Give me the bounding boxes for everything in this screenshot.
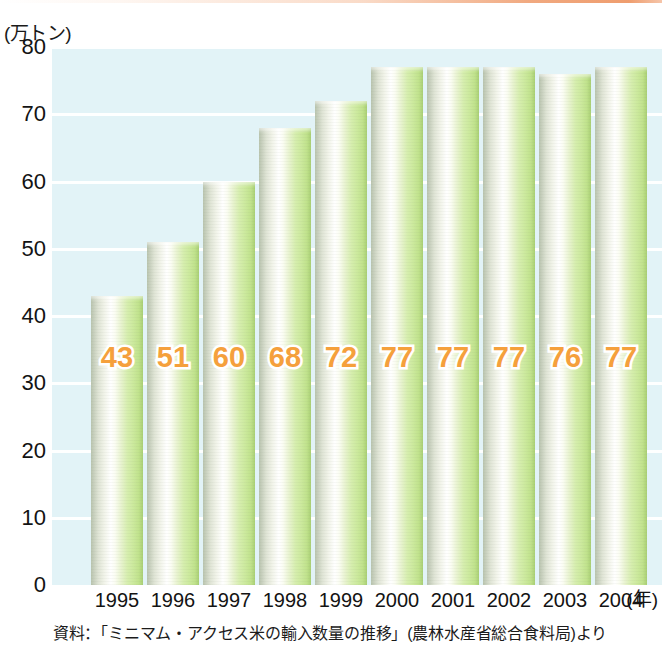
y-axis-tick-60: 60 [0,171,46,193]
y-axis-tick-70: 70 [0,103,46,125]
value-label-2003: 76 [539,343,591,372]
y-axis-tick-10: 10 [0,507,46,529]
bar-1996 [147,242,199,585]
x-axis-tick-1999: 1999 [311,590,371,610]
x-axis-unit-label: (年) [626,590,658,609]
x-axis-tick-2002: 2002 [479,590,539,610]
bar-2000 [371,67,423,585]
x-axis-tick-2003: 2003 [535,590,595,610]
y-axis-tick-40: 40 [0,305,46,327]
source-note: 資料：「ミニマム・アクセス米の輸入数量の推移」(農林水産省総合食料局)より [0,620,660,644]
value-label-1996: 51 [147,343,199,372]
y-axis-tick-80: 80 [0,36,46,58]
x-axis-tick-2001: 2001 [423,590,483,610]
value-label-2000: 77 [371,343,423,372]
x-axis-tick-1996: 1996 [143,590,203,610]
value-label-2004: 77 [595,343,647,372]
chart-figure: (万トン) 80706050403020100 4351606872777777… [0,0,662,646]
value-label-1998: 68 [259,343,311,372]
bar-series: 43516068727777777677 [52,47,662,585]
value-label-2001: 77 [427,343,479,372]
bar-2002 [483,67,535,585]
y-axis-tick-20: 20 [0,440,46,462]
bar-2003 [539,74,591,585]
page-top-rule [0,0,662,3]
value-label-2002: 77 [483,343,535,372]
bar-2001 [427,67,479,585]
bar-1995 [91,296,143,585]
plot-area: 43516068727777777677 [52,47,662,585]
x-axis-tick-2000: 2000 [367,590,427,610]
x-axis-tick-1998: 1998 [255,590,315,610]
value-label-1995: 43 [91,343,143,372]
x-axis-tick-1995: 1995 [87,590,147,610]
bar-1997 [203,182,255,586]
bar-2004 [595,67,647,585]
y-axis-tick-0: 0 [0,574,46,596]
y-axis-tick-50: 50 [0,238,46,260]
value-label-1999: 72 [315,343,367,372]
y-axis-tick-30: 30 [0,372,46,394]
value-label-1997: 60 [203,343,255,372]
x-axis-tick-1997: 1997 [199,590,259,610]
